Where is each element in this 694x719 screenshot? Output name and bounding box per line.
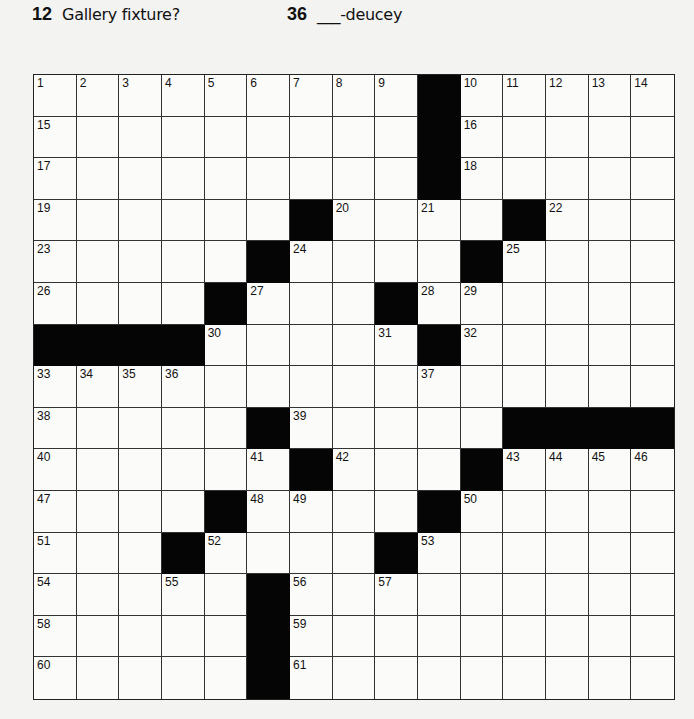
grid-cell[interactable] (461, 408, 504, 450)
grid-cell[interactable] (589, 533, 632, 575)
grid-cell[interactable] (375, 117, 418, 159)
grid-cell[interactable] (119, 616, 162, 658)
grid-cell[interactable] (375, 408, 418, 450)
grid-cell[interactable]: 40 (34, 449, 77, 491)
grid-cell[interactable]: 44 (546, 449, 589, 491)
grid-cell[interactable] (77, 491, 120, 533)
grid-cell[interactable]: 51 (34, 533, 77, 575)
grid-cell[interactable]: 1 (34, 75, 77, 117)
grid-cell[interactable] (119, 574, 162, 616)
grid-cell[interactable] (119, 449, 162, 491)
grid-cell[interactable] (290, 158, 333, 200)
grid-cell[interactable]: 17 (34, 158, 77, 200)
grid-cell[interactable] (631, 657, 674, 699)
grid-cell[interactable] (631, 574, 674, 616)
grid-cell[interactable] (546, 241, 589, 283)
grid-cell[interactable] (589, 491, 632, 533)
grid-cell[interactable]: 27 (247, 283, 290, 325)
grid-cell[interactable]: 43 (503, 449, 546, 491)
grid-cell[interactable] (77, 449, 120, 491)
grid-cell[interactable] (77, 200, 120, 242)
grid-cell[interactable]: 8 (333, 75, 376, 117)
grid-cell[interactable] (589, 657, 632, 699)
grid-cell[interactable] (503, 574, 546, 616)
grid-cell[interactable]: 33 (34, 366, 77, 408)
grid-cell[interactable] (546, 491, 589, 533)
grid-cell[interactable] (589, 241, 632, 283)
grid-cell[interactable] (503, 117, 546, 159)
grid-cell[interactable]: 18 (461, 158, 504, 200)
grid-cell[interactable] (589, 616, 632, 658)
grid-cell[interactable] (333, 325, 376, 367)
grid-cell[interactable] (461, 366, 504, 408)
grid-cell[interactable] (375, 366, 418, 408)
grid-cell[interactable] (205, 200, 248, 242)
grid-cell[interactable]: 13 (589, 75, 632, 117)
grid-cell[interactable]: 57 (375, 574, 418, 616)
grid-cell[interactable] (461, 616, 504, 658)
grid-cell[interactable] (546, 283, 589, 325)
grid-cell[interactable] (119, 408, 162, 450)
grid-cell[interactable]: 46 (631, 449, 674, 491)
grid-cell[interactable] (631, 533, 674, 575)
grid-cell[interactable]: 36 (162, 366, 205, 408)
grid-cell[interactable] (631, 366, 674, 408)
grid-cell[interactable]: 9 (375, 75, 418, 117)
grid-cell[interactable] (589, 325, 632, 367)
grid-cell[interactable] (631, 158, 674, 200)
grid-cell[interactable] (333, 574, 376, 616)
grid-cell[interactable]: 31 (375, 325, 418, 367)
grid-cell[interactable] (418, 449, 461, 491)
grid-cell[interactable] (631, 283, 674, 325)
grid-cell[interactable] (333, 408, 376, 450)
grid-cell[interactable] (461, 657, 504, 699)
grid-cell[interactable] (333, 117, 376, 159)
grid-cell[interactable] (77, 616, 120, 658)
grid-cell[interactable] (77, 408, 120, 450)
grid-cell[interactable] (119, 200, 162, 242)
grid-cell[interactable] (247, 366, 290, 408)
grid-cell[interactable] (162, 241, 205, 283)
grid-cell[interactable] (205, 366, 248, 408)
grid-cell[interactable] (119, 491, 162, 533)
grid-cell[interactable] (375, 449, 418, 491)
grid-cell[interactable] (162, 158, 205, 200)
grid-cell[interactable] (631, 491, 674, 533)
grid-cell[interactable] (503, 283, 546, 325)
grid-cell[interactable] (631, 241, 674, 283)
grid-cell[interactable] (375, 491, 418, 533)
grid-cell[interactable] (546, 117, 589, 159)
grid-cell[interactable]: 25 (503, 241, 546, 283)
grid-cell[interactable]: 47 (34, 491, 77, 533)
grid-cell[interactable] (77, 283, 120, 325)
grid-cell[interactable]: 37 (418, 366, 461, 408)
grid-cell[interactable] (119, 533, 162, 575)
grid-cell[interactable] (589, 158, 632, 200)
grid-cell[interactable] (375, 657, 418, 699)
grid-cell[interactable] (546, 366, 589, 408)
grid-cell[interactable]: 21 (418, 200, 461, 242)
grid-cell[interactable]: 10 (461, 75, 504, 117)
grid-cell[interactable]: 61 (290, 657, 333, 699)
grid-cell[interactable]: 23 (34, 241, 77, 283)
grid-cell[interactable] (589, 574, 632, 616)
grid-cell[interactable] (162, 657, 205, 699)
grid-cell[interactable] (290, 325, 333, 367)
grid-cell[interactable] (247, 200, 290, 242)
grid-cell[interactable] (631, 117, 674, 159)
grid-cell[interactable] (205, 117, 248, 159)
grid-cell[interactable] (418, 657, 461, 699)
grid-cell[interactable] (461, 200, 504, 242)
grid-cell[interactable] (247, 533, 290, 575)
grid-cell[interactable]: 7 (290, 75, 333, 117)
grid-cell[interactable] (119, 657, 162, 699)
grid-cell[interactable]: 54 (34, 574, 77, 616)
grid-cell[interactable] (461, 533, 504, 575)
grid-cell[interactable]: 38 (34, 408, 77, 450)
grid-cell[interactable] (205, 449, 248, 491)
grid-cell[interactable] (162, 408, 205, 450)
grid-cell[interactable] (546, 325, 589, 367)
grid-cell[interactable] (162, 283, 205, 325)
grid-cell[interactable] (375, 200, 418, 242)
grid-cell[interactable] (205, 657, 248, 699)
